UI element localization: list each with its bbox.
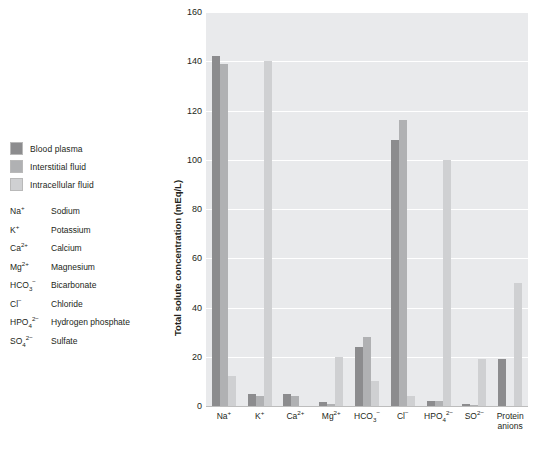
legend-item: Intracellular fluid xyxy=(10,176,175,193)
x-tick-label: Cl− xyxy=(385,409,421,431)
key-item-symbol: HCO3− xyxy=(10,280,51,291)
bar-group xyxy=(349,12,385,406)
bar-group xyxy=(492,12,528,406)
bar xyxy=(264,61,272,406)
bar xyxy=(399,120,407,406)
legend-item-label: Blood plasma xyxy=(30,144,83,154)
bar xyxy=(391,140,399,406)
y-tick-label: 80 xyxy=(192,204,202,214)
key-item: Na+Sodium xyxy=(10,206,175,217)
legend-item: Blood plasma xyxy=(10,140,175,157)
ion-abbreviation-key: Na+SodiumK+PotassiumCa2+CalciumMg2+Magne… xyxy=(10,206,175,347)
legend-item-label: Interstitial fluid xyxy=(30,162,86,172)
y-tick-label: 20 xyxy=(192,352,202,362)
bar-group xyxy=(278,12,314,406)
key-item-symbol: Ca2+ xyxy=(10,243,51,254)
y-tick-label: 120 xyxy=(187,106,202,116)
key-item: HPO42−Hydrogen phosphate xyxy=(10,317,175,328)
key-item: HCO3−Bicarbonate xyxy=(10,280,175,291)
legend-swatch xyxy=(10,160,23,173)
bar xyxy=(363,337,371,406)
bar-group xyxy=(421,12,457,406)
legend-item: Interstitial fluid xyxy=(10,158,175,175)
x-tick-label: HPO42− xyxy=(421,409,457,431)
legend-swatch xyxy=(10,178,23,191)
x-tick-label: HCO3− xyxy=(349,409,385,431)
bar-groups xyxy=(206,12,528,406)
bar-group xyxy=(242,12,278,406)
key-item: Mg2+Magnesium xyxy=(10,262,175,273)
x-tick-label: Mg2+ xyxy=(313,409,349,431)
bar xyxy=(212,56,220,406)
legend-swatch xyxy=(10,142,23,155)
bar xyxy=(256,396,264,406)
legend-and-key-panel: Blood plasmaInterstitial fluidIntracellu… xyxy=(10,140,175,354)
key-item-name: Calcium xyxy=(51,243,82,254)
bar xyxy=(283,394,291,406)
key-item-symbol: K+ xyxy=(10,225,51,236)
x-tick-label: SO2− xyxy=(456,409,492,431)
key-item: K+Potassium xyxy=(10,225,175,236)
key-item: SO42−Sulfate xyxy=(10,336,175,347)
bar-group xyxy=(206,12,242,406)
bar xyxy=(371,381,379,406)
x-axis-ticks: Na+K+Ca2+Mg2+HCO3−Cl−HPO42−SO2−Proteinan… xyxy=(206,409,528,431)
key-item-symbol: Cl− xyxy=(10,299,51,310)
x-tick-label: K+ xyxy=(242,409,278,431)
key-item-symbol: HPO42− xyxy=(10,317,51,328)
bar-group xyxy=(456,12,492,406)
key-item-symbol: SO42− xyxy=(10,336,51,347)
key-item-symbol: Na+ xyxy=(10,206,51,217)
bar-chart: Total solute concentration (mEq/L) 02040… xyxy=(160,6,532,436)
bar xyxy=(220,64,228,406)
key-item: Ca2+Calcium xyxy=(10,243,175,254)
key-item-name: Magnesium xyxy=(51,262,95,273)
x-tick-label: Proteinanions xyxy=(492,409,528,431)
x-axis-line xyxy=(206,406,528,407)
legend-item-label: Intracellular fluid xyxy=(30,180,94,190)
y-tick-label: 40 xyxy=(192,303,202,313)
key-item-name: Sodium xyxy=(51,206,80,217)
key-item-name: Sulfate xyxy=(51,336,77,347)
bar xyxy=(478,359,486,406)
x-tick-label: Ca2+ xyxy=(278,409,314,431)
y-axis-ticks: 020406080100120140160 xyxy=(174,12,202,406)
y-tick-label: 0 xyxy=(197,401,202,411)
bar xyxy=(498,359,506,406)
figure-root: Blood plasmaInterstitial fluidIntracellu… xyxy=(0,0,539,462)
key-item-name: Potassium xyxy=(51,225,91,236)
y-tick-label: 160 xyxy=(187,7,202,17)
key-item-name: Bicarbonate xyxy=(51,280,96,291)
y-tick-label: 140 xyxy=(187,56,202,66)
bar xyxy=(291,396,299,406)
bar xyxy=(335,357,343,406)
plot-area xyxy=(206,12,528,406)
x-tick-label: Na+ xyxy=(206,409,242,431)
key-item-symbol: Mg2+ xyxy=(10,262,51,273)
bar xyxy=(248,394,256,406)
bar xyxy=(407,396,415,406)
chart-legend: Blood plasmaInterstitial fluidIntracellu… xyxy=(10,140,175,193)
key-item: Cl−Chloride xyxy=(10,299,175,310)
bar-group xyxy=(313,12,349,406)
key-item-name: Chloride xyxy=(51,299,83,310)
bar xyxy=(514,283,522,406)
bar-group xyxy=(385,12,421,406)
y-tick-label: 100 xyxy=(187,155,202,165)
bar xyxy=(355,347,363,406)
bar xyxy=(228,376,236,406)
key-item-name: Hydrogen phosphate xyxy=(51,317,130,328)
y-tick-label: 60 xyxy=(192,253,202,263)
bar xyxy=(443,160,451,406)
